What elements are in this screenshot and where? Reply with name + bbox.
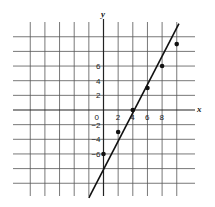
y-tick-label: −6 [91,150,101,159]
data-series [89,24,179,198]
x-axis-label: x [196,104,202,114]
data-point [145,86,150,91]
y-tick-label: 2 [96,91,101,100]
x-tick-label: 8 [160,113,165,122]
data-point [131,108,136,113]
y-axis-label: y [100,9,106,19]
y-tick-label: −2 [91,121,101,130]
y-tick-label: −4 [91,135,101,144]
y-tick-label: 6 [96,62,101,71]
data-point [160,64,165,69]
y-tick-label: 4 [96,77,101,86]
data-point [116,130,121,135]
data-point [174,42,179,47]
coordinate-plane-chart: 02468642−2−4−6 x y [0,0,215,207]
x-tick-label: 6 [145,113,150,122]
x-tick-label: 2 [116,113,121,122]
data-point [101,152,106,157]
